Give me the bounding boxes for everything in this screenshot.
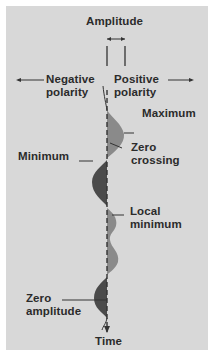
zero-amplitude-label-1: Zero [26,292,51,305]
negative-polarity-label-1: Negative [46,73,95,86]
amplitude-label: Amplitude [86,15,143,28]
positive-polarity-arrow-icon [168,78,194,82]
amplitude-marker [107,37,125,66]
negative-polarity-arrow-icon [16,78,44,82]
zero-crossing-label-2: crossing [131,154,180,167]
negative-polarity-label-2: polarity [46,86,88,99]
time-arrow-icon [104,326,110,333]
waveform [92,86,124,330]
zero-crossing-label-1: Zero [131,141,156,154]
minimum-label: Minimum [18,150,69,163]
positive-polarity-label-2: polarity [114,86,156,99]
local-minimum-label-2: minimum [130,218,182,231]
positive-polarity-label-1: Positive [114,73,159,86]
local-minimum-label-1: Local [130,205,161,218]
maximum-label: Maximum [142,107,196,120]
time-label: Time [95,335,122,348]
zero-amplitude-label-2: amplitude [26,305,81,318]
